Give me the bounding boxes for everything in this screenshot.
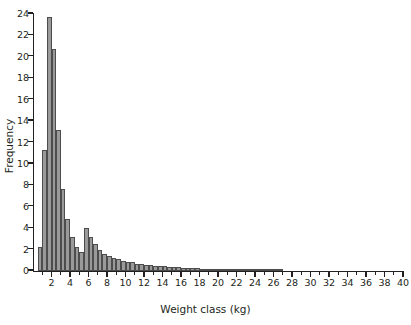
x-axis-minor-tick	[208, 272, 209, 275]
y-axis-tick-label: 6	[23, 202, 29, 212]
x-axis-minor-tick	[153, 272, 154, 275]
x-axis-tick-label: 40	[388, 278, 411, 288]
x-axis-minor-tick	[134, 272, 135, 275]
x-axis-minor-tick	[245, 272, 246, 275]
y-axis-title: Frequency	[3, 91, 15, 201]
y-axis-tick-label: 16	[17, 95, 29, 105]
x-axis-tick-labels: 246810121416182022242628303234363840	[0, 278, 411, 292]
histogram-bar	[278, 269, 283, 271]
x-axis-minor-tick	[79, 272, 80, 275]
y-axis-tick-label: 2	[23, 245, 29, 255]
x-axis-minor-tick	[282, 272, 283, 275]
x-axis-minor-tick	[171, 272, 172, 275]
x-axis-minor-tick	[60, 272, 61, 275]
x-axis-minor-tick	[338, 272, 339, 275]
y-axis-tick-label: 0	[23, 266, 29, 276]
x-axis-minor-tick	[393, 272, 394, 275]
y-axis-tick-label: 12	[17, 138, 29, 148]
y-axis-tick-label: 20	[17, 52, 29, 62]
x-axis-minor-tick	[301, 272, 302, 275]
x-axis-minor-tick	[375, 272, 376, 275]
x-axis-minor-tick	[190, 272, 191, 275]
x-axis-minor-tick	[42, 272, 43, 275]
y-axis-tick-label: 10	[17, 159, 29, 169]
x-axis-title: Weight class (kg)	[0, 303, 411, 315]
x-axis-minor-tick	[319, 272, 320, 275]
y-axis-tick-label: 24	[17, 9, 29, 19]
x-axis-minor-tick	[264, 272, 265, 275]
histogram-chart: 024681012141618202224 246810121416182022…	[0, 0, 411, 325]
y-axis-tick-label: 18	[17, 73, 29, 83]
plot-area	[33, 14, 403, 271]
y-axis-tick-label: 22	[17, 30, 29, 40]
x-axis-minor-tick	[116, 272, 117, 275]
y-axis-tick-label: 14	[17, 116, 29, 126]
y-axis-tick-label: 8	[23, 180, 29, 190]
x-axis-minor-tick	[227, 272, 228, 275]
x-axis-minor-tick	[356, 272, 357, 275]
x-axis-minor-tick	[97, 272, 98, 275]
y-axis-tick-label: 4	[23, 223, 29, 233]
